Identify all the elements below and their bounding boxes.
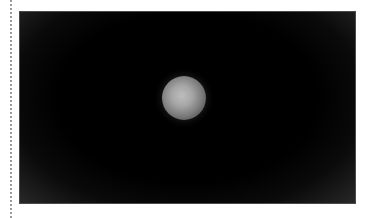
page	[0, 0, 373, 218]
photo-frame	[19, 11, 356, 204]
sphere	[162, 76, 206, 120]
dotted-margin-rule	[10, 0, 12, 218]
